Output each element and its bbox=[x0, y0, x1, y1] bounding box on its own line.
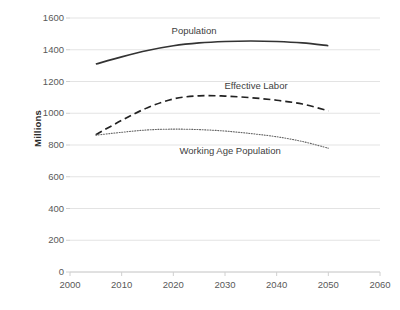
data-series bbox=[96, 41, 328, 148]
y-axis-tick-marks bbox=[66, 18, 70, 272]
population-projection-chart: Millions 16001400120010008006004002000 2… bbox=[0, 0, 400, 310]
x-tick-label: 2010 bbox=[102, 279, 142, 290]
x-tick-label: 2040 bbox=[257, 279, 297, 290]
x-tick-label: 2020 bbox=[153, 279, 193, 290]
series-annotation-working-age-population: Working Age Population bbox=[180, 145, 281, 156]
x-axis-tick-marks bbox=[70, 272, 380, 276]
x-tick-label: 2000 bbox=[50, 279, 90, 290]
series-line-effective-labor bbox=[96, 96, 328, 135]
series-annotation-effective-labor: Effective Labor bbox=[224, 80, 287, 91]
x-tick-label: 2030 bbox=[205, 279, 245, 290]
series-line-population bbox=[96, 41, 328, 64]
x-tick-label: 2050 bbox=[308, 279, 348, 290]
x-tick-label: 2060 bbox=[360, 279, 400, 290]
series-annotation-population: Population bbox=[172, 25, 217, 36]
